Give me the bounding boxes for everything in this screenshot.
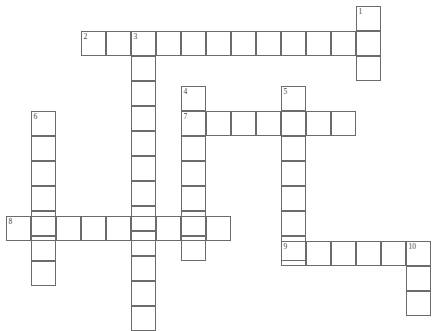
cell-letter[interactable] xyxy=(307,32,330,55)
crossword-cell[interactable] xyxy=(256,31,281,56)
crossword-cell[interactable] xyxy=(31,216,56,241)
crossword-grid[interactable]: 12347568910 xyxy=(0,0,443,331)
cell-letter[interactable] xyxy=(132,157,155,180)
crossword-cell[interactable] xyxy=(131,181,156,206)
cell-letter[interactable] xyxy=(32,137,55,160)
cell-letter[interactable] xyxy=(132,182,155,205)
crossword-cell[interactable] xyxy=(206,31,231,56)
cell-letter[interactable] xyxy=(232,32,255,55)
crossword-cell[interactable]: 2 xyxy=(81,31,106,56)
cell-letter[interactable] xyxy=(132,217,155,240)
crossword-cell[interactable] xyxy=(31,136,56,161)
cell-letter[interactable] xyxy=(357,32,380,55)
crossword-cell[interactable] xyxy=(131,306,156,331)
crossword-cell[interactable] xyxy=(331,31,356,56)
crossword-cell[interactable] xyxy=(131,56,156,81)
crossword-cell[interactable]: 5 xyxy=(281,86,306,111)
crossword-cell[interactable] xyxy=(131,106,156,131)
cell-letter[interactable] xyxy=(282,32,305,55)
crossword-cell[interactable] xyxy=(281,186,306,211)
cell-letter[interactable] xyxy=(182,32,205,55)
cell-letter[interactable] xyxy=(32,162,55,185)
cell-letter[interactable] xyxy=(132,107,155,130)
crossword-cell[interactable] xyxy=(181,31,206,56)
cell-letter[interactable] xyxy=(282,112,305,135)
crossword-cell[interactable] xyxy=(306,111,331,136)
cell-letter[interactable] xyxy=(82,217,105,240)
cell-letter[interactable] xyxy=(157,217,180,240)
crossword-cell[interactable]: 7 xyxy=(181,111,206,136)
crossword-cell[interactable] xyxy=(131,216,156,241)
crossword-cell[interactable] xyxy=(406,266,431,291)
crossword-cell[interactable] xyxy=(106,216,131,241)
cell-letter[interactable] xyxy=(332,32,355,55)
crossword-cell[interactable] xyxy=(181,136,206,161)
cell-letter[interactable] xyxy=(307,242,330,265)
cell-letter[interactable] xyxy=(132,307,155,330)
crossword-cell[interactable] xyxy=(306,241,331,266)
crossword-cell[interactable] xyxy=(156,216,181,241)
cell-letter[interactable] xyxy=(132,82,155,105)
cell-letter[interactable] xyxy=(357,242,380,265)
crossword-cell[interactable] xyxy=(281,31,306,56)
cell-letter[interactable] xyxy=(407,242,430,265)
crossword-cell[interactable] xyxy=(81,216,106,241)
cell-letter[interactable] xyxy=(132,57,155,80)
cell-letter[interactable] xyxy=(332,242,355,265)
cell-letter[interactable] xyxy=(182,217,205,240)
cell-letter[interactable] xyxy=(107,217,130,240)
crossword-cell[interactable]: 6 xyxy=(31,111,56,136)
crossword-cell[interactable] xyxy=(131,281,156,306)
cell-letter[interactable] xyxy=(282,137,305,160)
crossword-cell[interactable] xyxy=(381,241,406,266)
cell-letter[interactable] xyxy=(82,32,105,55)
crossword-cell[interactable] xyxy=(131,156,156,181)
crossword-cell[interactable]: 1 xyxy=(356,6,381,31)
cell-letter[interactable] xyxy=(132,32,155,55)
cell-letter[interactable] xyxy=(182,137,205,160)
crossword-cell[interactable] xyxy=(131,256,156,281)
cell-letter[interactable] xyxy=(307,112,330,135)
crossword-cell[interactable] xyxy=(31,161,56,186)
crossword-cell[interactable] xyxy=(181,161,206,186)
crossword-cell[interactable] xyxy=(181,216,206,241)
crossword-cell[interactable] xyxy=(281,211,306,236)
cell-letter[interactable] xyxy=(57,217,80,240)
cell-letter[interactable] xyxy=(232,112,255,135)
crossword-cell[interactable] xyxy=(331,111,356,136)
cell-letter[interactable] xyxy=(32,217,55,240)
cell-letter[interactable] xyxy=(282,87,305,110)
cell-letter[interactable] xyxy=(182,112,205,135)
cell-letter[interactable] xyxy=(357,57,380,80)
crossword-cell[interactable] xyxy=(281,136,306,161)
cell-letter[interactable] xyxy=(32,112,55,135)
crossword-cell[interactable] xyxy=(281,111,306,136)
crossword-cell[interactable] xyxy=(281,161,306,186)
crossword-cell[interactable] xyxy=(131,81,156,106)
crossword-cell[interactable]: 8 xyxy=(6,216,31,241)
cell-letter[interactable] xyxy=(132,132,155,155)
cell-letter[interactable] xyxy=(282,187,305,210)
crossword-cell[interactable] xyxy=(356,56,381,81)
crossword-cell[interactable] xyxy=(106,31,131,56)
cell-letter[interactable] xyxy=(382,242,405,265)
crossword-cell[interactable] xyxy=(331,241,356,266)
cell-letter[interactable] xyxy=(132,257,155,280)
crossword-cell[interactable]: 3 xyxy=(131,31,156,56)
crossword-cell[interactable] xyxy=(56,216,81,241)
cell-letter[interactable] xyxy=(357,7,380,30)
crossword-cell[interactable]: 10 xyxy=(406,241,431,266)
crossword-cell[interactable] xyxy=(131,131,156,156)
crossword-cell[interactable] xyxy=(231,31,256,56)
cell-letter[interactable] xyxy=(282,212,305,235)
cell-letter[interactable] xyxy=(257,112,280,135)
cell-letter[interactable] xyxy=(182,87,205,110)
cell-letter[interactable] xyxy=(407,267,430,290)
cell-letter[interactable] xyxy=(207,112,230,135)
cell-letter[interactable] xyxy=(282,162,305,185)
crossword-cell[interactable]: 9 xyxy=(281,241,306,266)
cell-letter[interactable] xyxy=(332,112,355,135)
cell-letter[interactable] xyxy=(7,217,30,240)
cell-letter[interactable] xyxy=(107,32,130,55)
crossword-cell[interactable] xyxy=(356,241,381,266)
